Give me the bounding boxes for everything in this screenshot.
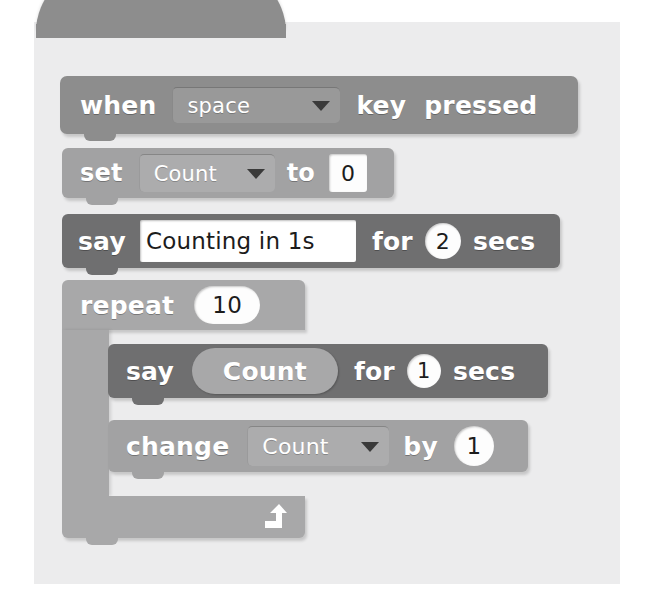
- variable-dropdown-change[interactable]: Count: [247, 426, 389, 466]
- set-value-input[interactable]: 0: [329, 154, 367, 192]
- loop-arrow-icon: [257, 504, 287, 530]
- block-change-variable[interactable]: change Count by 1: [108, 420, 528, 472]
- change-value-input[interactable]: 1: [454, 426, 494, 466]
- block-bottom-notch: [132, 396, 164, 405]
- say-label: say: [78, 227, 126, 256]
- script-canvas: when space key pressed set Count to 0 sa…: [0, 0, 654, 601]
- hat-block-dome: [36, 0, 286, 32]
- chevron-down-icon: [247, 169, 265, 179]
- by-label: by: [403, 432, 438, 461]
- repeat-label: repeat: [80, 291, 174, 320]
- say-seconds-input[interactable]: 2: [425, 223, 461, 259]
- block-set-variable[interactable]: set Count to 0: [62, 148, 394, 198]
- pressed-label: pressed: [424, 91, 537, 120]
- block-bottom-notch: [86, 196, 118, 205]
- for-label: for: [372, 227, 413, 256]
- to-label: to: [287, 159, 315, 187]
- repeat-left-arm: [62, 330, 109, 496]
- block-say-for-secs-outer[interactable]: say Counting in 1s for 2 secs: [62, 214, 560, 268]
- say-label-inner: say: [126, 357, 174, 386]
- repeat-times-input[interactable]: 10: [194, 286, 260, 324]
- block-say-for-secs-inner[interactable]: say Count for 1 secs: [108, 344, 548, 398]
- for-label-inner: for: [354, 357, 395, 386]
- variable-dropdown-change-value: Count: [262, 434, 328, 459]
- block-repeat-header[interactable]: repeat 10: [62, 280, 305, 330]
- say-seconds-input-inner[interactable]: 1: [407, 354, 441, 388]
- key-dropdown-value: space: [187, 94, 250, 118]
- say-message-input[interactable]: Counting in 1s: [140, 220, 356, 262]
- set-label: set: [80, 159, 123, 187]
- repeat-footer[interactable]: [62, 496, 305, 538]
- block-bottom-notch: [132, 470, 164, 479]
- block-bottom-notch: [86, 266, 118, 275]
- block-bottom-notch: [86, 536, 118, 545]
- key-dropdown[interactable]: space: [172, 87, 340, 123]
- block-when-key-pressed[interactable]: when space key pressed: [60, 76, 578, 134]
- key-label: key: [356, 91, 406, 120]
- when-label: when: [80, 91, 156, 120]
- change-label: change: [126, 432, 229, 461]
- block-bottom-notch: [84, 132, 116, 141]
- variable-dropdown-set-value: Count: [154, 162, 217, 186]
- chevron-down-icon: [361, 442, 379, 452]
- secs-label: secs: [473, 227, 535, 256]
- secs-label-inner: secs: [453, 357, 515, 386]
- chevron-down-icon: [312, 101, 330, 111]
- variable-dropdown-set[interactable]: Count: [139, 154, 275, 192]
- variable-reporter-count[interactable]: Count: [192, 348, 338, 394]
